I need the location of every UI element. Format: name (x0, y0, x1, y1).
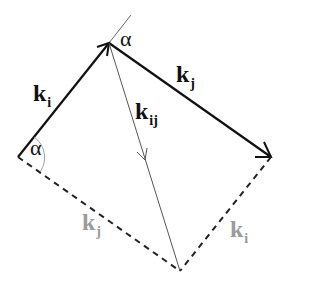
label-kij-base: k (135, 98, 148, 124)
label-kj-bottom-base: k (82, 209, 95, 235)
label-alpha-top: α (120, 28, 132, 50)
label-kj-bottom: kj (82, 210, 101, 234)
label-kj-top: kj (176, 62, 195, 86)
label-alpha-left: α (30, 137, 42, 159)
label-kj-top-base: k (176, 61, 189, 87)
label-kij: kij (135, 99, 158, 123)
label-kij-sub: ij (149, 113, 158, 128)
kij-vector (109, 43, 180, 271)
label-ki-bottom-sub: i (244, 231, 248, 246)
label-ki-top-sub: i (47, 95, 51, 110)
kj-vector (109, 43, 271, 157)
label-ki-top-base: k (33, 80, 46, 106)
label-ki-top: ki (33, 81, 51, 105)
label-kj-top-sub: j (190, 76, 195, 91)
label-kj-bottom-sub: j (96, 224, 101, 239)
label-ki-bottom: ki (230, 217, 248, 241)
label-ki-bottom-base: k (230, 216, 243, 242)
ki-dashed-line (180, 157, 271, 271)
